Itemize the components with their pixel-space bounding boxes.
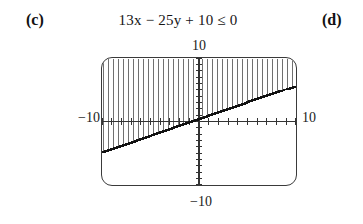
figure-container: (c) (d) 13x − 25y + 10 ≤ 0 10 −10 −10 10 — [0, 0, 363, 224]
axis-label-ymax: 10 — [180, 38, 218, 54]
axis-label-xmax: 10 — [302, 110, 332, 126]
part-label-c: (c) — [26, 11, 44, 29]
graph-plot — [102, 58, 296, 185]
inequality-expression: 13x − 25y + 10 ≤ 0 — [103, 12, 253, 29]
expression-text: 13x − 25y + 10 ≤ 0 — [119, 12, 238, 28]
axis-label-xmin: −10 — [66, 110, 100, 126]
part-label-d: (d) — [322, 11, 342, 29]
axis-label-ymin: −10 — [180, 194, 222, 210]
shaded-region-hatching — [104, 59, 292, 152]
calculator-screen — [101, 57, 297, 186]
